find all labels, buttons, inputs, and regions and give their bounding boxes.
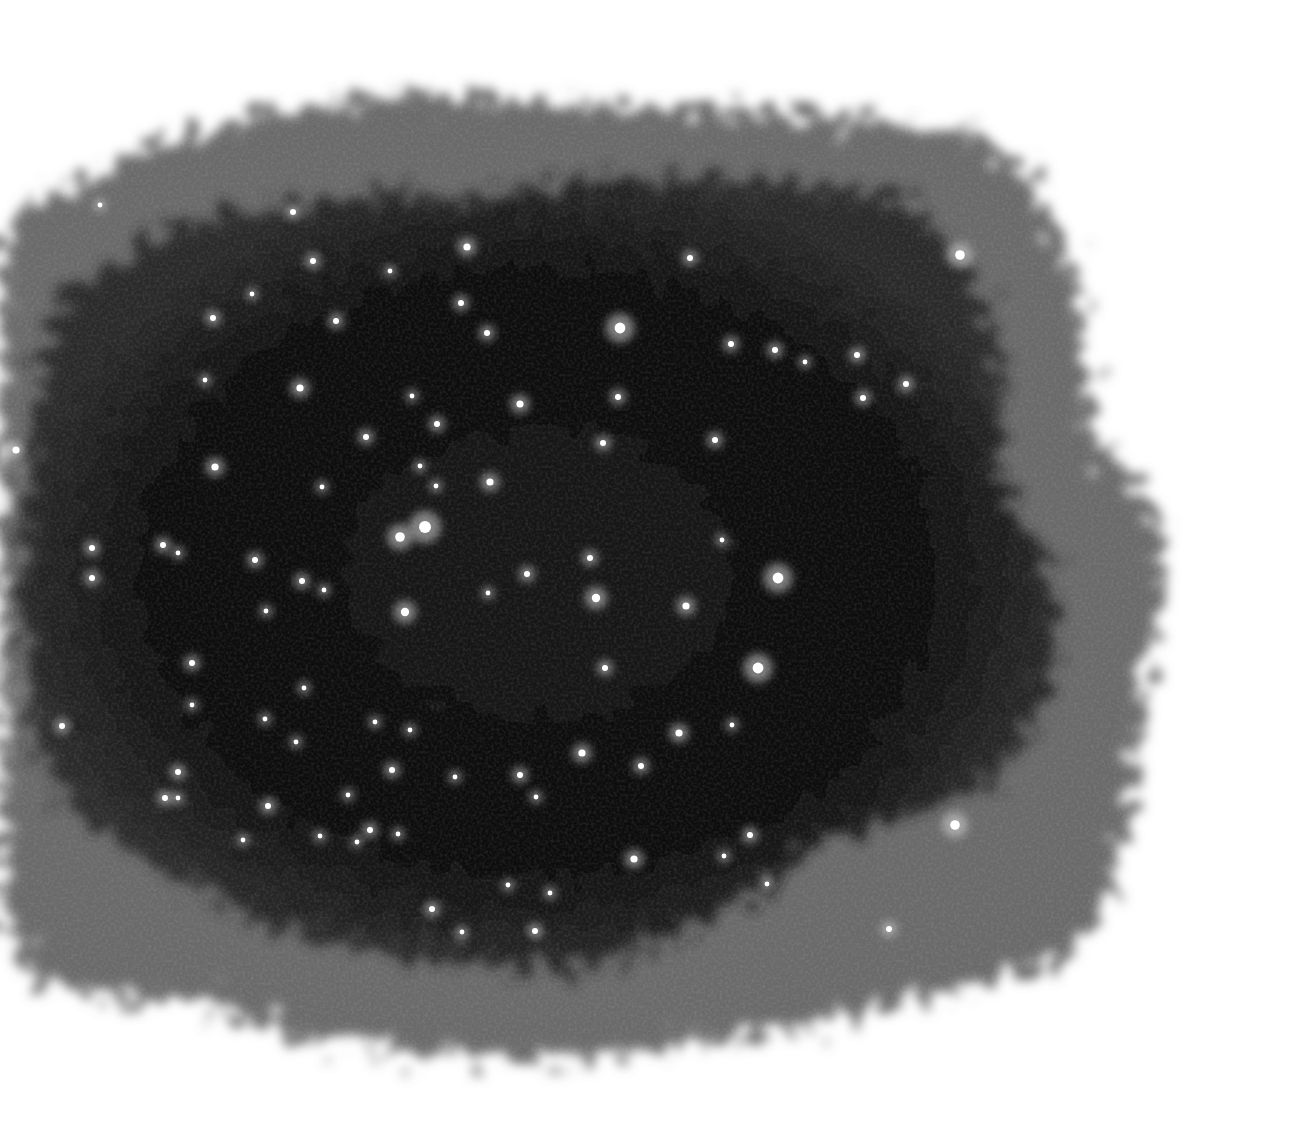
star	[320, 485, 325, 490]
star	[463, 243, 470, 250]
star	[484, 330, 490, 336]
star	[602, 665, 608, 671]
star	[516, 400, 523, 407]
star	[333, 318, 339, 324]
star	[548, 891, 553, 896]
star	[458, 300, 464, 306]
star	[373, 720, 378, 725]
star	[98, 203, 103, 208]
star	[434, 484, 439, 489]
star	[388, 269, 393, 274]
star	[675, 729, 682, 736]
star	[294, 740, 299, 745]
star	[578, 749, 585, 756]
star	[12, 446, 19, 453]
star	[346, 793, 351, 798]
star	[860, 395, 866, 401]
star	[600, 440, 606, 446]
star	[434, 421, 440, 427]
star	[160, 542, 166, 548]
star	[682, 602, 689, 609]
star	[506, 883, 511, 888]
star	[296, 384, 303, 391]
star	[401, 608, 409, 616]
star	[318, 834, 323, 839]
star	[638, 763, 644, 769]
star	[408, 728, 413, 733]
star	[429, 906, 435, 912]
star	[264, 609, 269, 614]
star	[175, 769, 181, 775]
star	[730, 723, 735, 728]
star	[517, 772, 523, 778]
star	[615, 394, 621, 400]
star	[903, 381, 909, 387]
star	[524, 571, 530, 577]
star	[773, 573, 784, 584]
star	[263, 717, 268, 722]
star	[302, 686, 307, 691]
star	[722, 854, 727, 859]
star	[486, 591, 491, 596]
star	[265, 803, 271, 809]
star	[886, 926, 892, 932]
star	[854, 352, 860, 358]
star	[203, 378, 208, 383]
star	[747, 832, 753, 838]
star	[290, 209, 296, 215]
star	[355, 840, 360, 845]
star	[765, 882, 770, 887]
star	[712, 437, 718, 443]
star	[630, 855, 637, 862]
star	[419, 521, 431, 533]
star	[176, 551, 181, 556]
star	[486, 478, 493, 485]
star	[955, 250, 965, 260]
star	[418, 464, 423, 469]
star	[162, 795, 168, 801]
star	[89, 575, 95, 581]
star	[728, 341, 734, 347]
star	[410, 394, 415, 399]
star	[363, 434, 369, 440]
star	[241, 838, 246, 843]
star	[453, 775, 458, 780]
star	[687, 255, 693, 261]
star	[389, 767, 395, 773]
star	[460, 930, 465, 935]
star	[803, 360, 808, 365]
star	[89, 545, 95, 551]
star	[720, 538, 725, 543]
star	[950, 820, 960, 830]
star	[753, 663, 764, 674]
star	[210, 315, 216, 321]
star	[176, 796, 181, 801]
star	[587, 555, 593, 561]
star	[322, 588, 327, 593]
star	[615, 323, 626, 334]
star	[310, 258, 316, 264]
star	[211, 463, 218, 470]
star	[592, 594, 600, 602]
star	[395, 532, 405, 542]
star	[299, 578, 305, 584]
star	[367, 827, 373, 833]
star	[396, 832, 401, 837]
star	[532, 928, 538, 934]
star-field-image	[0, 0, 1295, 1146]
star	[252, 557, 258, 563]
star	[534, 795, 539, 800]
star	[250, 292, 255, 297]
star	[189, 660, 195, 666]
star	[190, 703, 195, 708]
star	[59, 723, 65, 729]
star	[772, 347, 778, 353]
